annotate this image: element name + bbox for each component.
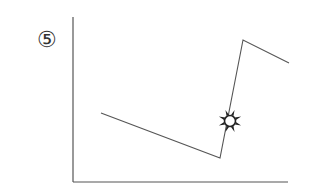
data-line [101,40,289,158]
sun-burst-icon [219,110,241,132]
line-graph [0,0,313,194]
